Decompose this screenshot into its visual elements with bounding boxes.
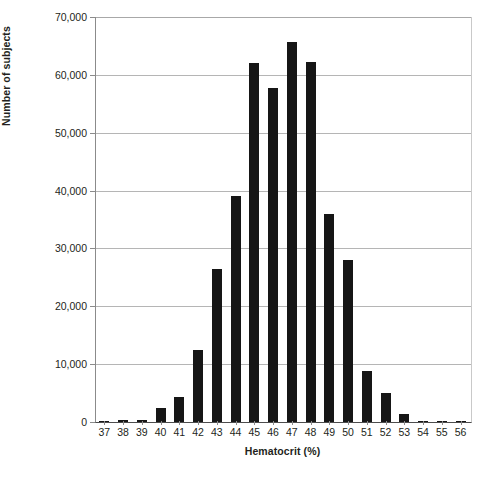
x-axis-tick-label: 44 (226, 426, 245, 438)
x-axis-tick-label: 38 (114, 426, 133, 438)
x-axis-tick-mark (329, 421, 330, 425)
bar (381, 393, 391, 422)
x-axis-tick-label: 43 (208, 426, 227, 438)
bar (249, 63, 259, 422)
x-axis-tick-label: 52 (376, 426, 395, 438)
x-axis-tick-labels: 3738394041424344454647484950515253545556 (95, 426, 470, 442)
bar (268, 88, 278, 422)
bar (306, 62, 316, 422)
x-axis-tick-label: 48 (301, 426, 320, 438)
x-axis-title: Hematocrit (%) (95, 445, 470, 457)
x-axis-tick-mark (123, 421, 124, 425)
x-axis-tick-mark (273, 421, 274, 425)
x-axis-tick-mark (461, 421, 462, 425)
bar-series (95, 17, 470, 422)
x-axis-tick-label: 40 (151, 426, 170, 438)
bar (212, 269, 222, 422)
y-axis-tick-label: 50,000 (17, 128, 87, 139)
x-axis-tick-label: 37 (95, 426, 114, 438)
x-axis-tick-label: 46 (264, 426, 283, 438)
x-axis-tick-label: 50 (339, 426, 358, 438)
x-axis-tick-label: 54 (414, 426, 433, 438)
x-axis-tick-label: 56 (451, 426, 470, 438)
bar (324, 214, 334, 422)
y-axis-tick-label: 70,000 (17, 12, 87, 23)
x-axis-tick-label: 45 (245, 426, 264, 438)
x-axis-tick-mark (217, 421, 218, 425)
bar (343, 260, 353, 422)
x-axis-tick-mark (161, 421, 162, 425)
bar (193, 350, 203, 422)
x-axis-tick-mark (142, 421, 143, 425)
x-axis-tick-label: 55 (433, 426, 452, 438)
y-axis-tick-label: 40,000 (17, 186, 87, 197)
x-axis-tick-mark (404, 421, 405, 425)
x-axis-tick-mark (423, 421, 424, 425)
x-axis-tick-mark (292, 421, 293, 425)
bar (231, 196, 241, 422)
x-axis-tick-label: 51 (358, 426, 377, 438)
x-axis-tick-label: 47 (283, 426, 302, 438)
x-axis-tick-mark (367, 421, 368, 425)
x-axis-tick-mark (386, 421, 387, 425)
x-axis-tick-mark (311, 421, 312, 425)
y-axis-tick-labels: 010,00020,00030,00040,00050,00060,00070,… (0, 0, 95, 481)
x-axis-tick-label: 42 (189, 426, 208, 438)
figure-caption (3, 469, 483, 480)
x-axis-tick-mark (104, 421, 105, 425)
bar (174, 397, 184, 422)
x-axis-tick-mark (348, 421, 349, 425)
x-axis-tick-mark (442, 421, 443, 425)
y-axis-tick-label: 10,000 (17, 359, 87, 370)
y-axis-tick-label: 60,000 (17, 70, 87, 81)
x-axis-tick-mark (179, 421, 180, 425)
x-axis-tick-mark (236, 421, 237, 425)
x-axis-tick-label: 39 (133, 426, 152, 438)
x-axis-tick-label: 49 (320, 426, 339, 438)
bar (156, 408, 166, 422)
bar (287, 42, 297, 422)
x-axis-tick-mark (254, 421, 255, 425)
x-axis-tick-label: 53 (395, 426, 414, 438)
x-axis-tick-label: 41 (170, 426, 189, 438)
x-axis-tick-mark (198, 421, 199, 425)
histogram-figure: Number of subjects 010,00020,00030,00040… (0, 0, 490, 481)
y-axis-tick-label: 0 (17, 417, 87, 428)
y-axis-tick-label: 20,000 (17, 301, 87, 312)
y-axis-tick-label: 30,000 (17, 243, 87, 254)
bar (362, 371, 372, 422)
